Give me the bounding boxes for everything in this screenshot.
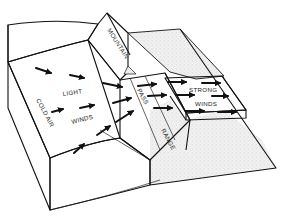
diagram-canvas: LIGHT WINDS COLD AIR MOUNTAIN PASS RANGE… (0, 0, 284, 222)
wind-arrow-icon (70, 75, 84, 78)
label-winds-strong: WINDS (195, 100, 217, 107)
gap-wind-block-diagram: LIGHT WINDS COLD AIR MOUNTAIN PASS RANGE… (0, 0, 284, 222)
wind-arrow-icon (113, 98, 131, 103)
label-winds-light: WINDS (71, 113, 94, 125)
wind-arrow-icon (80, 105, 94, 108)
label-pass: PASS (136, 87, 150, 106)
label-light: LIGHT (62, 87, 83, 97)
wind-arrow-icon (36, 68, 51, 73)
label-strong: STRONG (189, 86, 217, 93)
wind-arrow-icon (52, 109, 63, 112)
wind-arrow-icon (148, 95, 166, 96)
wind-arrow-icon (103, 83, 122, 87)
wind-arrow-icon (97, 126, 110, 135)
light-wind-arrows (36, 68, 133, 153)
wind-arrow-icon (138, 84, 156, 86)
wind-arrow-icon (116, 111, 133, 122)
